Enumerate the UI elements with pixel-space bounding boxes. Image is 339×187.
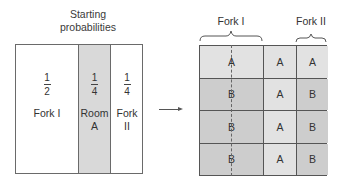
fork-2-probability: 1 4 xyxy=(111,73,143,97)
fork-1-probability: 1 2 xyxy=(16,73,78,97)
fork-2-label: Fork II xyxy=(111,107,143,133)
grid-cell: B xyxy=(297,79,328,111)
fork-1-label: Fork I xyxy=(16,107,78,120)
arrow-head-icon xyxy=(178,107,183,111)
room-a-probability: 1 4 xyxy=(79,73,110,97)
fork-2-header: Fork II xyxy=(295,15,327,27)
title-line-2: probabilities xyxy=(40,21,136,34)
fork-1-split-dashed-line xyxy=(231,45,232,176)
grid-cell: A xyxy=(297,46,328,78)
starting-probabilities-title: Starting probabilities xyxy=(40,8,136,34)
grid-cell: A xyxy=(264,46,296,78)
grid-cell: A xyxy=(264,79,296,111)
fork-1-region: 1 2 Fork I xyxy=(16,45,78,173)
fork-2-region: 1 4 Fork II xyxy=(111,45,143,173)
room-a-label: Room A xyxy=(79,107,110,133)
room-a-region: 1 4 Room A xyxy=(78,45,111,173)
fork-2-brace-icon xyxy=(295,32,327,43)
grid-cell: B xyxy=(297,144,328,176)
outcome-grid: A A A B A B B A B B A B xyxy=(199,45,327,176)
fork-1-brace-icon xyxy=(199,28,263,42)
arrow-right-icon xyxy=(159,109,179,110)
fork-1-header: Fork I xyxy=(199,15,263,27)
title-line-1: Starting xyxy=(40,8,136,21)
grid-cell: A xyxy=(264,144,296,176)
grid-cell: A xyxy=(264,111,296,143)
starting-probabilities-box: 1 2 Fork I 1 4 Room A 1 4 Fork II xyxy=(15,44,143,174)
grid-cell: B xyxy=(297,111,328,143)
